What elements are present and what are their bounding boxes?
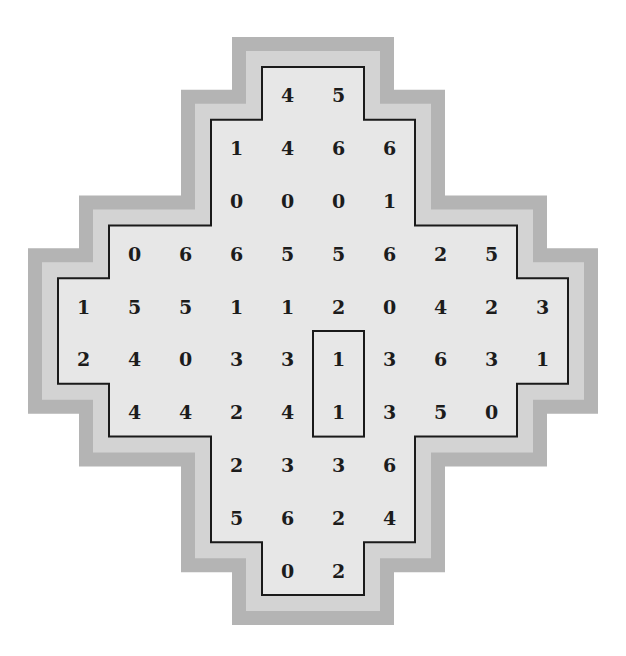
grid-cell[interactable]: 0 (262, 173, 313, 226)
grid-cell[interactable]: 0 (160, 331, 211, 384)
grid-cell[interactable]: 4 (262, 67, 313, 120)
grid-cell[interactable]: 6 (160, 225, 211, 278)
grid-cell[interactable]: 6 (415, 331, 466, 384)
grid-cell[interactable]: 1 (262, 278, 313, 331)
grid-cell[interactable]: 6 (211, 225, 262, 278)
grid-cell[interactable]: 3 (211, 331, 262, 384)
grid-cell[interactable]: 5 (415, 384, 466, 437)
grid-cell[interactable]: 2 (466, 278, 517, 331)
grid-cell[interactable]: 5 (262, 225, 313, 278)
grid-cell[interactable]: 4 (109, 331, 160, 384)
grid-cell[interactable]: 2 (415, 225, 466, 278)
grid-cell[interactable]: 5 (211, 489, 262, 542)
grid-cell[interactable]: 5 (160, 278, 211, 331)
puzzle-board: 4514660001066556251551120423240331363144… (0, 0, 626, 656)
grid-cell[interactable]: 0 (313, 173, 364, 226)
grid-cell[interactable]: 6 (313, 120, 364, 173)
grid-cell[interactable]: 1 (211, 278, 262, 331)
grid-cell[interactable]: 2 (313, 542, 364, 595)
grid-cell[interactable]: 5 (466, 225, 517, 278)
grid-cell[interactable]: 5 (313, 67, 364, 120)
grid-cell[interactable]: 1 (313, 384, 364, 437)
grid-cell[interactable]: 2 (313, 278, 364, 331)
grid-cell[interactable]: 6 (364, 225, 415, 278)
grid-cell[interactable]: 1 (517, 331, 568, 384)
grid-cell[interactable]: 2 (211, 437, 262, 490)
grid-cell[interactable]: 6 (364, 120, 415, 173)
grid-cell[interactable]: 4 (262, 384, 313, 437)
grid-cell[interactable]: 4 (262, 120, 313, 173)
grid-cell[interactable]: 3 (466, 331, 517, 384)
grid-cell[interactable]: 0 (211, 173, 262, 226)
grid-cell[interactable]: 4 (415, 278, 466, 331)
grid-cell[interactable]: 2 (211, 384, 262, 437)
grid-cell[interactable]: 3 (262, 331, 313, 384)
grid-cell[interactable]: 3 (364, 384, 415, 437)
grid-cell[interactable]: 0 (262, 542, 313, 595)
grid-cell[interactable]: 0 (109, 225, 160, 278)
grid-cell[interactable]: 2 (58, 331, 109, 384)
grid-cell[interactable]: 4 (364, 489, 415, 542)
grid-cell[interactable]: 4 (109, 384, 160, 437)
grid-cell[interactable]: 3 (313, 437, 364, 490)
grid-cell[interactable]: 6 (262, 489, 313, 542)
grid-cell[interactable]: 5 (313, 225, 364, 278)
grid-cell[interactable]: 3 (262, 437, 313, 490)
grid-cell[interactable]: 1 (364, 173, 415, 226)
grid-cell[interactable]: 5 (109, 278, 160, 331)
grid-cell[interactable]: 2 (313, 489, 364, 542)
grid-cell[interactable]: 6 (364, 437, 415, 490)
grid-cell[interactable]: 4 (160, 384, 211, 437)
grid-cell[interactable]: 1 (58, 278, 109, 331)
grid-cell[interactable]: 1 (211, 120, 262, 173)
grid-cell[interactable]: 3 (517, 278, 568, 331)
grid-cell[interactable]: 0 (466, 384, 517, 437)
grid-cell[interactable]: 3 (364, 331, 415, 384)
grid-cell[interactable]: 0 (364, 278, 415, 331)
grid-cell[interactable]: 1 (313, 331, 364, 384)
